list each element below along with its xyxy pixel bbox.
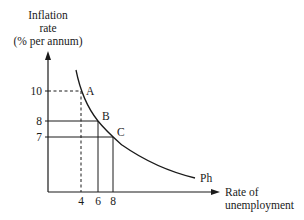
x-axis-label-line-1: Rate of	[225, 186, 259, 198]
point-label-c: C	[117, 126, 125, 138]
y-tick-10: 10	[31, 85, 43, 97]
x-tick-6: 6	[95, 195, 101, 207]
x-axis-label-line-2: unemployment	[225, 199, 295, 212]
point-label-a: A	[86, 85, 95, 97]
y-axis-arrow-icon	[45, 51, 51, 60]
y-ticks: 10 8 7	[31, 85, 49, 143]
x-tick-8: 8	[110, 195, 116, 207]
y-axis-label-line-3: (% per annum)	[14, 35, 83, 48]
y-tick-7: 7	[36, 131, 42, 143]
curve-label-ph: Ph	[200, 172, 212, 184]
chart-canvas: Inflation rate (% per annum) 10 8 7 4 6 …	[0, 0, 304, 220]
guide-lines-point-b	[48, 121, 98, 192]
x-axis	[48, 189, 220, 195]
y-tick-8: 8	[36, 115, 42, 127]
x-axis-arrow-icon	[211, 189, 220, 195]
y-axis-label-line-1: Inflation	[28, 9, 68, 21]
x-tick-4: 4	[78, 195, 84, 207]
point-label-b: B	[102, 110, 110, 122]
y-axis-label-line-2: rate	[39, 22, 56, 34]
guide-lines-point-a	[48, 91, 81, 192]
phillips-curve-chart: Inflation rate (% per annum) 10 8 7 4 6 …	[0, 0, 304, 220]
x-ticks: 4 6 8	[78, 195, 116, 207]
